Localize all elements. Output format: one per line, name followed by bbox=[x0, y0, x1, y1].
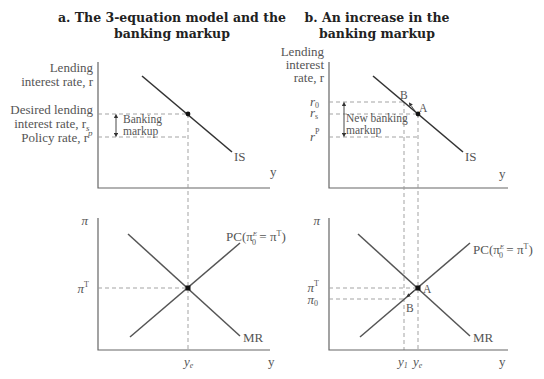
panel-a-pi-axis-label: π bbox=[81, 213, 88, 228]
panel-b-pc-curve bbox=[360, 243, 470, 337]
panel-a-bottom-x-label: y bbox=[268, 354, 275, 369]
panel-a-is-chart: Lending interest rate, r Desired lending… bbox=[10, 60, 277, 350]
panel-a-equilibrium-point-bottom bbox=[186, 286, 191, 291]
panel-b-rs-sub: s bbox=[315, 112, 318, 121]
panel-b-pit-sup: T bbox=[314, 279, 319, 288]
panel-a-mr-label: MR bbox=[243, 330, 264, 345]
panel-b-rp-sup: P bbox=[315, 127, 320, 136]
panel-b-pc-mr-chart: π π T π 0 A B PC(πE0 = πT) MR y1 ye y bbox=[307, 213, 532, 370]
panel-a-rs-label-line1: Desired lending bbox=[10, 102, 93, 117]
panel-b-pi-axis-label: π bbox=[313, 213, 320, 228]
panel-a-mr-curve bbox=[128, 234, 240, 336]
three-equation-model-diagram: a. The 3-equation model and the banking … bbox=[0, 0, 544, 379]
panel-b-title-line1: b. An increase in the bbox=[304, 10, 449, 25]
panel-a-pit-sup: T bbox=[84, 280, 89, 289]
panel-b-bottom-move-arrow bbox=[408, 291, 414, 296]
panel-b-y-label-line3: rate, r bbox=[294, 70, 325, 85]
panel-b-y1-label: y1 bbox=[396, 354, 408, 370]
panel-b-point-a-bottom bbox=[416, 286, 421, 291]
panel-a-pc-label: PC(πE0 = πT) bbox=[226, 229, 286, 247]
panel-b-point-b-label-top: B bbox=[400, 89, 408, 101]
panel-b-point-a-label-top: A bbox=[419, 102, 428, 114]
panel-a-pc-curve bbox=[130, 243, 240, 337]
panel-a-title-line2: banking markup bbox=[114, 26, 230, 41]
panel-a-ye-label: ye bbox=[182, 354, 194, 370]
panel-a-rp-sup: p bbox=[87, 128, 93, 138]
panel-a-top-x-label: y bbox=[270, 164, 277, 179]
panel-a-equilibrium-point bbox=[186, 112, 191, 117]
panel-b-bottom-x-label: y bbox=[499, 354, 506, 369]
panel-a-rs-label-line2: interest rate, r bbox=[14, 116, 86, 131]
panel-a-markup-line2: markup bbox=[123, 125, 158, 138]
panel-a-y-label-line2: interest rate, r bbox=[21, 74, 93, 89]
panel-a-is-label: IS bbox=[234, 149, 246, 164]
panel-b-is-label: IS bbox=[465, 149, 477, 164]
panel-a-y-label-line1: Lending bbox=[50, 60, 94, 75]
panel-b-point-b-label-bottom: B bbox=[406, 302, 414, 314]
panel-b: b. An increase in the banking markup Len… bbox=[281, 10, 533, 370]
panel-b-title-line2: banking markup bbox=[319, 26, 435, 41]
panel-a-rp-label: Policy rate, r bbox=[21, 130, 88, 145]
panel-b-markup-line2: markup bbox=[346, 124, 381, 137]
panel-a-pc-mr-chart: π π T PC(πE0 = πT) MR ye y bbox=[77, 213, 285, 370]
panel-b-pc-label: PC(πE0 = πT) bbox=[473, 242, 533, 260]
panel-b-point-a-label-bottom: A bbox=[423, 283, 432, 295]
panel-b-mr-curve bbox=[358, 234, 470, 336]
panel-b-top-x-label: y bbox=[499, 166, 506, 181]
panel-a: a. The 3-equation model and the banking … bbox=[10, 10, 286, 370]
panel-b-r0-sub: 0 bbox=[315, 101, 319, 110]
panel-b-ye-label: ye bbox=[411, 354, 423, 370]
panel-a-title-line1: a. The 3-equation model and the bbox=[58, 10, 286, 25]
panel-b-mr-label: MR bbox=[473, 330, 494, 345]
panel-b-pi0-sub: 0 bbox=[314, 299, 318, 308]
